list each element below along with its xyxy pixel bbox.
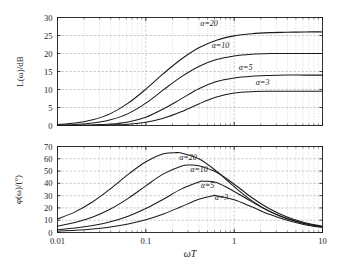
magnitude-annotation-0: α=20 xyxy=(200,19,218,28)
y-tick-label: 70 xyxy=(44,142,53,152)
y-tick-label: 20 xyxy=(44,49,53,59)
phase-annotation-0: α=20 xyxy=(179,153,197,162)
x-tick-label: 0.1 xyxy=(141,236,152,246)
magnitude-annotation-3: α=3 xyxy=(256,78,270,87)
phase-annotation-2: α=5 xyxy=(201,181,215,190)
x-axis-title: ωT xyxy=(184,248,198,259)
phase-annotation-1: α=10 xyxy=(190,165,208,174)
y-tick-label: 30 xyxy=(44,13,53,23)
y-tick-label: 50 xyxy=(44,166,53,176)
y-tick-label: 0 xyxy=(48,121,52,131)
x-tick-label: 0.01 xyxy=(50,236,65,246)
y-tick-label: 20 xyxy=(44,203,53,213)
y-tick-label: 25 xyxy=(44,31,53,41)
y-tick-label: 10 xyxy=(44,215,53,225)
x-tick-label: 10 xyxy=(318,236,327,246)
y-tick-label: 30 xyxy=(44,191,53,201)
y-tick-label: 15 xyxy=(44,67,53,77)
y-tick-label: 5 xyxy=(48,103,52,113)
x-tick-label: 1 xyxy=(232,236,236,246)
magnitude-annotation-2: α=5 xyxy=(239,63,253,72)
phase-axis-label: φ(ω)/(°) xyxy=(13,175,23,204)
bode-plot-svg: 051015202530010203040506070L(ω)/dBφ(ω)/(… xyxy=(0,0,340,275)
phase-annotation-3: α=3 xyxy=(215,193,229,202)
bode-plot-figure: 051015202530010203040506070L(ω)/dBφ(ω)/(… xyxy=(0,0,340,275)
y-tick-label: 10 xyxy=(44,85,53,95)
y-tick-label: 60 xyxy=(44,154,53,164)
magnitude-axis-label: L(ω)/dB xyxy=(15,56,25,86)
magnitude-annotation-1: α=10 xyxy=(212,41,230,50)
y-tick-label: 40 xyxy=(44,178,53,188)
